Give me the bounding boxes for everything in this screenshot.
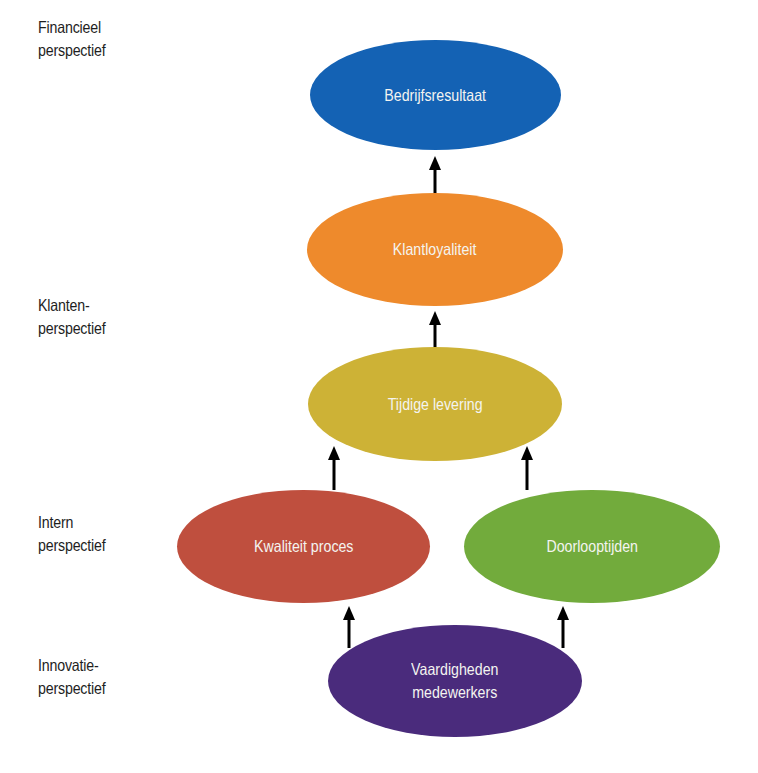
- perspective-label-klanten: Klanten- perspectief: [38, 294, 106, 340]
- perspective-label-innovatie: Innovatie- perspectief: [38, 654, 106, 700]
- arrowhead: [328, 446, 340, 460]
- node-label: Kwaliteit proces: [254, 535, 353, 558]
- node-bedrijfsresultaat: Bedrijfsresultaat: [310, 40, 561, 150]
- arrowhead: [521, 446, 533, 460]
- perspective-line: Klanten-: [38, 294, 106, 317]
- node-tijdige-levering: Tijdige levering: [308, 347, 562, 461]
- perspective-line: perspectief: [38, 534, 106, 557]
- perspective-line: perspectief: [38, 317, 106, 340]
- node-label: Tijdige levering: [388, 393, 483, 416]
- node-vaardigheden-medewerkers: Vaardigheden medewerkers: [328, 625, 582, 737]
- arrowhead: [557, 606, 569, 620]
- node-label: Klantloyaliteit: [393, 238, 477, 261]
- perspective-line: Intern: [38, 511, 106, 534]
- node-label: Bedrijfsresultaat: [385, 84, 487, 107]
- node-label: Doorlooptijden: [546, 535, 638, 558]
- perspective-line: perspectief: [38, 677, 106, 700]
- arrowhead: [429, 311, 441, 325]
- arrowhead: [343, 606, 355, 620]
- node-label-line2: medewerkers: [411, 681, 498, 704]
- perspective-label-intern: Intern perspectief: [38, 511, 106, 557]
- perspective-line: perspectief: [38, 39, 106, 62]
- perspective-line: Innovatie-: [38, 654, 106, 677]
- node-klantloyaliteit: Klantloyaliteit: [307, 193, 563, 306]
- arrowhead: [429, 156, 441, 170]
- perspective-line: Financieel: [38, 16, 106, 39]
- node-label-line1: Vaardigheden: [411, 658, 498, 681]
- node-kwaliteit-proces: Kwaliteit proces: [177, 490, 430, 603]
- perspective-label-financieel: Financieel perspectief: [38, 16, 106, 62]
- node-doorlooptijden: Doorlooptijden: [464, 490, 720, 603]
